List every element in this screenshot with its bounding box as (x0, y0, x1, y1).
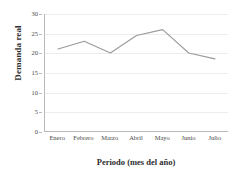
data-series-line (45, 14, 228, 131)
y-tick-mark (39, 112, 42, 113)
x-tick-label: Febrero (73, 134, 93, 141)
x-tick-label: Mayo (155, 134, 170, 141)
y-axis-tick-labels: 051015202530 (0, 14, 42, 132)
y-tick-label: 15 (4, 70, 38, 77)
y-tick-label: 10 (4, 89, 38, 96)
x-tick-label: Junio (182, 134, 196, 141)
y-tick-mark (39, 34, 42, 35)
y-tick-label: 0 (4, 129, 38, 136)
x-tick-label: Marzo (101, 134, 118, 141)
x-tick-label: Enero (49, 134, 65, 141)
y-tick-label: 20 (4, 50, 38, 57)
x-axis-tick-labels: EneroFebreroMarzoAbrilMayoJunioJulio (44, 134, 228, 150)
x-axis-title: Periodo (mes del año) (44, 157, 228, 167)
series-polyline (58, 30, 215, 59)
y-tick-mark (39, 132, 42, 133)
x-tick-label: Abril (129, 134, 143, 141)
y-tick-mark (39, 73, 42, 74)
y-tick-mark (39, 53, 42, 54)
y-tick-label: 25 (4, 30, 38, 37)
line-chart: Demanda real 051015202530 EneroFebreroMa… (0, 0, 252, 182)
y-tick-mark (39, 93, 42, 94)
y-tick-label: 30 (4, 11, 38, 18)
x-tick-label: Julio (209, 134, 222, 141)
y-tick-mark (39, 14, 42, 15)
y-tick-label: 5 (4, 109, 38, 116)
plot-area (44, 14, 228, 132)
